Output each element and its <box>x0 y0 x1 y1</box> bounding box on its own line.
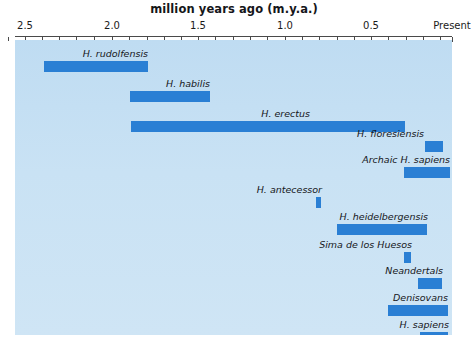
species-range-bar <box>418 278 442 289</box>
species-range-bar <box>337 224 427 235</box>
axis-tick-label: 0.5 <box>363 20 379 31</box>
species-range-bar <box>420 332 448 335</box>
species-label: Neandertals <box>385 265 443 276</box>
species-label: H. sapiens <box>400 319 449 330</box>
species-range-bar <box>388 305 448 316</box>
species-label: Sima de los Huesos <box>319 239 412 250</box>
chart-plot-area: H. rudolfensisH. habilisH. erectusH. flo… <box>15 40 452 335</box>
axis-tick-minor <box>8 37 9 41</box>
species-label: Denisovans <box>393 292 448 303</box>
species-label: H. habilis <box>166 78 210 89</box>
species-range-bar <box>44 61 148 72</box>
species-label: Archaic H. sapiens <box>362 154 450 165</box>
species-range-bar <box>130 91 210 102</box>
axis-tick-major <box>452 37 453 42</box>
axis-tick-label: 2.5 <box>17 20 33 31</box>
axis-tick-label: Present <box>433 20 471 31</box>
species-label: H. antecessor <box>257 184 322 195</box>
species-label: H. heidelbergensis <box>340 211 428 222</box>
species-label: H. erectus <box>261 108 310 119</box>
species-range-bar <box>404 167 450 178</box>
axis-tick-label-group: 2.52.01.51.00.5Present <box>15 0 452 36</box>
axis-tick-label: 1.0 <box>277 20 293 31</box>
species-label: H. floresiensis <box>357 128 424 139</box>
axis-tick-label: 2.0 <box>104 20 120 31</box>
species-range-bar <box>404 252 411 263</box>
axis-tick-label: 1.5 <box>190 20 206 31</box>
species-range-bar <box>425 141 443 152</box>
species-label: H. rudolfensis <box>83 48 148 59</box>
species-range-bar <box>316 197 321 208</box>
